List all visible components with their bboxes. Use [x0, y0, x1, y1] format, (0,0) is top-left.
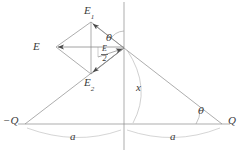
label-e1: E1: [84, 5, 94, 19]
label-e1-subscript: 1: [91, 13, 95, 21]
label-theta-apex: θ: [106, 33, 112, 43]
parallelogram-side-bottom-left: [56, 47, 91, 74]
label-e1-symbol: E: [84, 4, 91, 16]
label-a-left: a: [70, 131, 76, 142]
half-e-denominator: 2: [101, 55, 108, 63]
label-e-resultant: E: [33, 41, 40, 52]
figure-canvas: E1 E2 E θ θ x a a −Q Q E 2: [0, 0, 247, 152]
label-half-e-fraction: E 2: [101, 45, 108, 63]
label-charge-positive: Q: [228, 115, 236, 126]
vector-e2-arrow: [93, 48, 124, 72]
label-e2-subscript: 2: [91, 85, 95, 93]
label-charge-negative: −Q: [3, 115, 18, 126]
parallelogram-side-top-left: [56, 22, 91, 47]
label-distance-x: x: [136, 82, 141, 93]
diagram-svg: [0, 0, 247, 152]
label-e2-symbol: E: [84, 76, 91, 88]
label-theta-charge: θ: [198, 106, 204, 116]
label-e2: E2: [84, 77, 94, 91]
label-a-right: a: [170, 131, 176, 142]
half-e-numerator: E: [101, 45, 108, 53]
